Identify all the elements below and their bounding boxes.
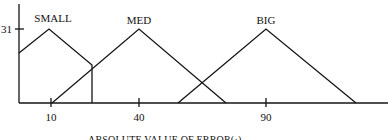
- series-big-label: BIG: [257, 14, 276, 26]
- series-med-line: [52, 29, 226, 103]
- x-tick-label-90: 90: [261, 111, 273, 123]
- x-tick-label-40: 40: [134, 111, 146, 123]
- x-tick-label-10: 10: [46, 111, 58, 123]
- series-small-line: [19, 29, 92, 103]
- series-big-line: [178, 29, 356, 103]
- series-small-label: SMALL: [34, 12, 72, 24]
- series-med-label: MED: [127, 14, 152, 26]
- membership-function-chart: 31 10 40 90 SMALL MED BIG ABSOLUTE VALUE…: [0, 0, 388, 140]
- y-tick-label-31: 31: [1, 23, 12, 35]
- x-axis-title: ABSOLUTE VALUE OF ERROR(·): [88, 134, 241, 140]
